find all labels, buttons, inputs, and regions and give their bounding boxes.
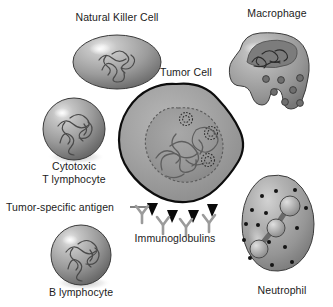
tumor-cell xyxy=(119,84,243,203)
neutrophil-nucleus-lobe xyxy=(267,219,285,237)
b-lymphocyte-body xyxy=(51,225,111,285)
label-neutrophil: Neutrophil xyxy=(238,284,326,296)
macrophage-granule xyxy=(282,99,289,106)
label-tumor-cell: Tumor Cell xyxy=(141,66,231,78)
tumor-specific-antigen xyxy=(207,204,218,217)
macrophage-granule xyxy=(263,76,270,83)
neutrophil-granule xyxy=(264,211,268,215)
natural-killer-cell xyxy=(73,35,162,89)
cytotoxic-t-lymphocyte-body xyxy=(43,98,105,160)
label-natural-killer-cell: Natural Killer Cell xyxy=(41,11,193,23)
b-lymphocyte-highlight xyxy=(62,235,78,245)
neutrophil-granule xyxy=(244,222,248,226)
macrophage-granule xyxy=(297,100,304,107)
neutrophil-granule xyxy=(260,194,264,198)
natural-killer-cell-highlight xyxy=(89,43,111,55)
neutrophil-granule xyxy=(304,206,308,210)
neutrophil-nucleus-lobe xyxy=(280,196,300,216)
neutrophil xyxy=(242,175,314,271)
macrophage-granule xyxy=(297,75,304,82)
macrophage-granule xyxy=(271,89,278,96)
cytotoxic-t-lymphocyte-highlight xyxy=(54,108,70,118)
neutrophil-granule xyxy=(242,238,246,242)
cytotoxic-t-lymphocyte xyxy=(43,98,105,164)
label-b-lymphocyte: B lymphocyte xyxy=(31,286,131,298)
macrophage xyxy=(229,33,309,109)
neutrophil-granule xyxy=(270,263,274,267)
diagram-canvas xyxy=(0,0,333,307)
immunoglobulin xyxy=(203,215,215,232)
label-immunoglobulins: Immunoglobulins xyxy=(122,232,228,244)
neutrophil-granule xyxy=(283,245,287,249)
neutrophil-granule xyxy=(250,208,254,212)
neutrophil-granule xyxy=(295,226,299,230)
neutrophil-granule xyxy=(256,223,260,227)
natural-killer-cell-body xyxy=(73,35,161,89)
label-cytotoxic-t-lymphocyte-line1: Cytotoxic xyxy=(24,160,124,173)
neutrophil-granule xyxy=(267,240,271,244)
neutrophil-granule xyxy=(290,260,294,264)
label-cytotoxic-t-lymphocyte: Cytotoxic T lymphocyte xyxy=(24,160,124,185)
neutrophil-granule xyxy=(248,256,252,260)
macrophage-granule xyxy=(290,87,297,94)
macrophage-granule xyxy=(278,77,285,84)
label-tumor-specific-antigen: Tumor-specific antigen xyxy=(6,201,114,213)
neutrophil-granule xyxy=(293,188,297,192)
neutrophil-granule xyxy=(274,189,278,193)
label-macrophage: Macrophage xyxy=(227,7,327,19)
immune-tumor-diagram: Natural Killer Cell Macrophage Tumor Cel… xyxy=(0,0,333,307)
label-cytotoxic-t-lymphocyte-line2: T lymphocyte xyxy=(24,173,124,186)
b-lymphocyte xyxy=(51,225,111,290)
neutrophil-nucleus-lobe xyxy=(250,240,268,258)
immunoglobulin xyxy=(136,206,148,223)
